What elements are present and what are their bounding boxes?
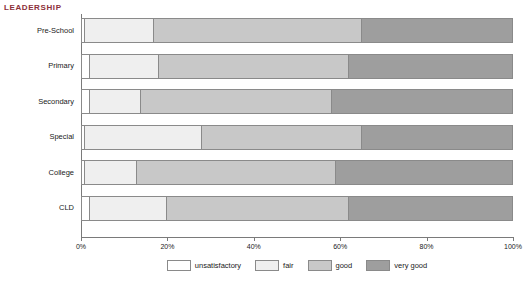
plot-area [81, 14, 513, 237]
x-axis-tick-mark [513, 237, 514, 241]
bar-segment [167, 196, 348, 221]
y-axis-label: College [0, 168, 74, 177]
bar-segment [154, 18, 361, 43]
legend-label: very good [394, 261, 427, 270]
bar-row [81, 160, 513, 185]
y-axis-label: Pre-School [0, 26, 74, 35]
x-axis-tick-label: 60% [333, 243, 347, 250]
bar-segment [85, 160, 137, 185]
chart-container: Pre-SchoolPrimarySecondarySpecialCollege… [0, 0, 527, 283]
legend-item[interactable]: fair [255, 260, 293, 271]
x-axis-tick-mark [427, 237, 428, 241]
legend-label: fair [283, 261, 293, 270]
bar-segment [141, 89, 331, 114]
bar-segment [90, 89, 142, 114]
y-axis-label: Secondary [0, 97, 74, 106]
x-axis-line [81, 237, 514, 238]
bar-segment [159, 54, 349, 79]
x-axis-tick-label: 40% [247, 243, 261, 250]
x-axis-tick-label: 100% [504, 243, 522, 250]
bar-segment [349, 54, 513, 79]
bar-segment [137, 160, 336, 185]
bar-segment [362, 18, 513, 43]
chart-legend: unsatisfactoryfairgoodvery good [81, 260, 513, 271]
bar-row [81, 89, 513, 114]
legend-label: good [336, 261, 353, 270]
x-axis-tick-mark [167, 237, 168, 241]
legend-item[interactable]: good [308, 260, 353, 271]
bar-segment [81, 196, 90, 221]
bar-row [81, 196, 513, 221]
bar-segment [332, 89, 513, 114]
bar-segment [81, 54, 90, 79]
legend-item[interactable]: unsatisfactory [167, 260, 241, 271]
legend-swatch [366, 260, 390, 271]
x-axis-tick-mark [254, 237, 255, 241]
bar-segment [85, 125, 202, 150]
bar-segment [336, 160, 513, 185]
x-axis-tick-label: 80% [420, 243, 434, 250]
bar-segment [349, 196, 513, 221]
x-axis-tick-mark [81, 237, 82, 241]
legend-label: unsatisfactory [195, 261, 241, 270]
legend-item[interactable]: very good [366, 260, 427, 271]
y-axis-label: Special [0, 132, 74, 141]
y-axis-label: CLD [0, 203, 74, 212]
legend-swatch [255, 260, 279, 271]
bar-segment [90, 196, 168, 221]
bar-segment [85, 18, 154, 43]
legend-swatch [308, 260, 332, 271]
bar-segment [90, 54, 159, 79]
bar-segment [202, 125, 362, 150]
bar-row [81, 54, 513, 79]
bar-row [81, 18, 513, 43]
bar-row [81, 125, 513, 150]
x-axis-tick-mark [340, 237, 341, 241]
y-axis-label: Primary [0, 61, 74, 70]
bar-segment [362, 125, 513, 150]
x-axis-tick-label: 20% [160, 243, 174, 250]
bar-segment [81, 89, 90, 114]
legend-swatch [167, 260, 191, 271]
x-axis-tick-label: 0% [76, 243, 86, 250]
